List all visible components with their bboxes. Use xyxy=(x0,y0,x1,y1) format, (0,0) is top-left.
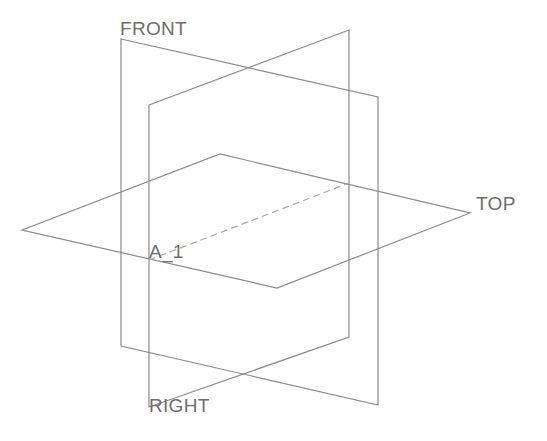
top-plane-label: TOP xyxy=(476,194,516,213)
top-datum-plane[interactable] xyxy=(22,154,470,288)
front-plane-label: FRONT xyxy=(120,19,187,38)
front-datum-plane[interactable] xyxy=(121,39,378,405)
right-datum-plane[interactable] xyxy=(149,30,349,407)
a1-axis-label: A_1 xyxy=(149,242,184,261)
datum-planes-canvas xyxy=(0,0,547,441)
right-plane-label: RIGHT xyxy=(149,396,210,415)
